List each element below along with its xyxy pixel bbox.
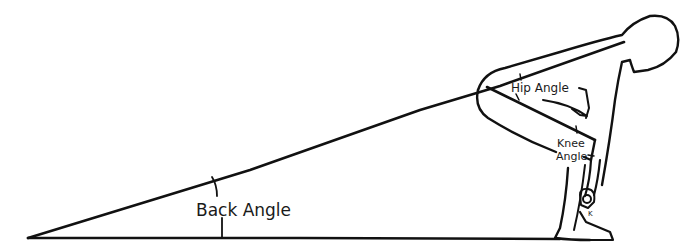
knee-angle-label-line1: Knee <box>557 137 585 150</box>
back-angle-label: Back Angle <box>196 200 291 220</box>
hip-angle-label: Hip Angle <box>511 81 569 95</box>
shin-back <box>555 168 590 240</box>
ground-line <box>28 238 560 239</box>
knee-angle-label-line2: Angle <box>556 150 588 163</box>
hand-grip-icon <box>583 195 591 203</box>
lap-curve <box>543 100 587 116</box>
diagram-canvas: Back Angle Hip Angle Knee Angle K <box>0 0 699 252</box>
small-k-mark: K <box>588 210 593 218</box>
squat-angle-diagram: Back Angle Hip Angle Knee Angle K <box>0 0 699 252</box>
back-line <box>28 42 624 238</box>
foot <box>580 212 613 240</box>
